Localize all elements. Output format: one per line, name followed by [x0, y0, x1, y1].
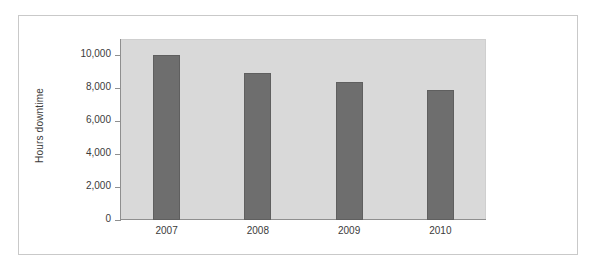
y-axis-tick-label: 8,000	[86, 81, 111, 92]
y-axis-tick: 4,000	[115, 154, 121, 155]
y-axis-tick-label: 0	[105, 213, 111, 224]
bar	[153, 55, 180, 220]
bar-chart: Hours downtime 02,0004,0006,0008,00010,0…	[19, 16, 579, 256]
y-axis-tick: 10,000	[115, 55, 121, 56]
bar	[336, 82, 363, 220]
y-axis-tick-label: 6,000	[86, 114, 111, 125]
y-axis-tick: 8,000	[115, 88, 121, 89]
y-axis-tick-label: 2,000	[86, 180, 111, 191]
x-axis-tick-label: 2007	[137, 225, 197, 236]
y-axis-tick-label: 10,000	[80, 48, 111, 59]
bar	[244, 73, 271, 220]
y-axis-tick: 0	[115, 220, 121, 221]
x-axis-tick-label: 2009	[319, 225, 379, 236]
y-axis-tick: 6,000	[115, 121, 121, 122]
y-axis-line	[120, 39, 121, 220]
y-axis-tick-label: 4,000	[86, 147, 111, 158]
figure-frame: Hours downtime 02,0004,0006,0008,00010,0…	[18, 15, 578, 255]
x-axis-tick-label: 2008	[228, 225, 288, 236]
x-axis-tick-label: 2010	[410, 225, 470, 236]
y-axis-tick: 2,000	[115, 187, 121, 188]
y-axis-title: Hours downtime	[34, 66, 45, 186]
bar	[427, 90, 454, 220]
